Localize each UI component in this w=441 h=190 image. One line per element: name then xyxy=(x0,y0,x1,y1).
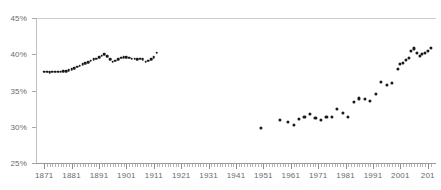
x-tick-minor xyxy=(176,164,177,167)
x-tick-minor xyxy=(313,164,314,167)
data-point xyxy=(292,123,295,126)
x-tick-minor xyxy=(140,164,141,167)
x-tick-major xyxy=(44,164,45,169)
data-point xyxy=(396,67,399,70)
x-tick-minor xyxy=(285,164,286,167)
x-tick-major xyxy=(209,164,210,169)
data-point xyxy=(308,112,311,115)
x-tick-minor xyxy=(411,164,412,167)
x-tick-minor xyxy=(115,164,116,167)
x-tick-minor xyxy=(61,164,62,167)
x-tick-minor xyxy=(94,164,95,167)
y-tick-label: 30% xyxy=(0,122,27,131)
x-tick-minor xyxy=(326,164,327,167)
x-tick-minor xyxy=(348,164,349,167)
x-tick-minor xyxy=(85,164,86,167)
x-tick-minor xyxy=(398,164,399,167)
x-tick-major xyxy=(428,164,429,169)
x-tick-minor xyxy=(365,164,366,167)
data-point xyxy=(330,115,333,118)
x-tick-minor xyxy=(337,164,338,167)
x-tick-minor xyxy=(80,164,81,167)
x-tick-minor xyxy=(425,164,426,167)
x-tick-minor xyxy=(239,164,240,167)
x-tick-minor xyxy=(315,164,316,167)
x-tick-minor xyxy=(431,164,432,167)
x-tick-minor xyxy=(389,164,390,167)
x-tick-minor xyxy=(192,164,193,167)
x-tick-minor xyxy=(203,164,204,167)
data-point xyxy=(352,101,355,104)
x-tick-label: 1971 xyxy=(309,171,328,180)
x-tick-minor xyxy=(146,164,147,167)
x-tick-minor xyxy=(269,164,270,167)
data-point xyxy=(336,108,339,111)
x-tick-minor xyxy=(335,164,336,167)
x-tick-minor xyxy=(340,164,341,167)
x-tick-minor xyxy=(420,164,421,167)
data-point xyxy=(374,93,377,96)
x-tick-minor xyxy=(277,164,278,167)
y-tick xyxy=(32,163,36,164)
x-tick-minor xyxy=(110,164,111,167)
x-tick-minor xyxy=(200,164,201,167)
x-tick-minor xyxy=(351,164,352,167)
data-point xyxy=(347,116,350,119)
data-point xyxy=(410,50,413,53)
x-tick-minor xyxy=(220,164,221,167)
y-axis-line xyxy=(36,18,37,163)
x-tick-minor xyxy=(211,164,212,167)
x-tick-label: 1981 xyxy=(336,171,355,180)
x-tick-minor xyxy=(266,164,267,167)
data-point xyxy=(259,127,262,130)
x-tick-major xyxy=(400,164,401,169)
x-tick-minor xyxy=(247,164,248,167)
x-tick-minor xyxy=(384,164,385,167)
x-tick-minor xyxy=(217,164,218,167)
x-tick-minor xyxy=(173,164,174,167)
x-tick-minor xyxy=(414,164,415,167)
x-tick-label: 1941 xyxy=(227,171,246,180)
x-tick-minor xyxy=(370,164,371,167)
x-tick-minor xyxy=(280,164,281,167)
y-tick xyxy=(32,127,36,128)
x-tick-minor xyxy=(302,164,303,167)
x-tick-minor xyxy=(143,164,144,167)
x-tick-minor xyxy=(395,164,396,167)
data-point xyxy=(278,119,281,122)
x-tick-label: 1901 xyxy=(117,171,136,180)
x-tick-minor xyxy=(168,164,169,167)
x-tick-minor xyxy=(387,164,388,167)
x-tick-minor xyxy=(69,164,70,167)
x-tick-minor xyxy=(403,164,404,167)
x-tick-minor xyxy=(422,164,423,167)
x-tick-minor xyxy=(241,164,242,167)
x-tick-minor xyxy=(244,164,245,167)
data-point xyxy=(341,111,344,114)
x-tick-minor xyxy=(104,164,105,167)
x-tick-minor xyxy=(231,164,232,167)
x-tick-minor xyxy=(324,164,325,167)
x-tick-minor xyxy=(113,164,114,167)
x-tick-minor xyxy=(189,164,190,167)
x-tick-minor xyxy=(159,164,160,167)
data-point xyxy=(402,61,405,64)
data-point xyxy=(426,50,429,53)
x-tick-minor xyxy=(274,164,275,167)
x-tick-major xyxy=(263,164,264,169)
x-tick-minor xyxy=(359,164,360,167)
x-tick-minor xyxy=(206,164,207,167)
x-tick-minor xyxy=(354,164,355,167)
data-point xyxy=(297,117,300,120)
x-tick-minor xyxy=(187,164,188,167)
y-tick xyxy=(32,54,36,55)
x-tick-minor xyxy=(74,164,75,167)
data-point xyxy=(407,56,410,59)
x-tick-label: 1991 xyxy=(364,171,383,180)
x-tick-minor xyxy=(228,164,229,167)
data-point xyxy=(380,80,383,83)
x-tick-minor xyxy=(170,164,171,167)
x-tick-minor xyxy=(96,164,97,167)
x-tick-minor xyxy=(261,164,262,167)
x-tick-major xyxy=(346,164,347,169)
